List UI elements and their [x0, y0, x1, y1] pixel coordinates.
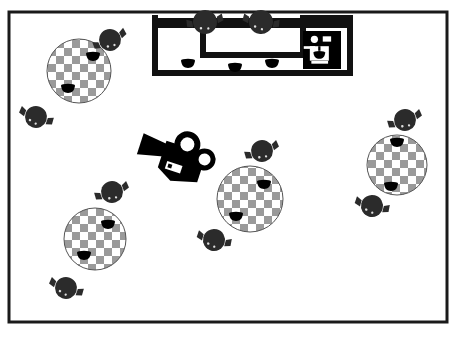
espresso-portafilter-light	[311, 36, 318, 43]
cafe-floor-plan	[0, 0, 459, 338]
table	[64, 208, 126, 270]
espresso-display	[323, 36, 331, 41]
table	[47, 39, 111, 103]
espresso-spout	[318, 46, 320, 51]
espresso-machine-icon[interactable]	[303, 31, 341, 69]
table-cup-rim	[257, 180, 271, 183]
table-cup-rim	[101, 220, 115, 223]
counter-cup-rim	[265, 59, 279, 62]
espresso-drip-tray	[311, 61, 328, 64]
espresso-cup-rim	[313, 51, 325, 54]
table-top[interactable]	[47, 39, 111, 103]
table-cup-rim	[384, 182, 398, 185]
table-cup-rim	[86, 52, 100, 55]
floor-plan-canvas	[0, 0, 459, 338]
table	[217, 166, 283, 232]
table-cup-rim	[390, 138, 404, 141]
counter-cup-rim	[228, 63, 242, 66]
table	[367, 135, 427, 195]
table-cup-rim	[229, 212, 243, 215]
counter-cup-rim	[181, 59, 195, 62]
table-top[interactable]	[217, 166, 283, 232]
table-cup-rim	[61, 84, 75, 87]
table-top[interactable]	[64, 208, 126, 270]
table-cup-rim	[77, 251, 91, 254]
